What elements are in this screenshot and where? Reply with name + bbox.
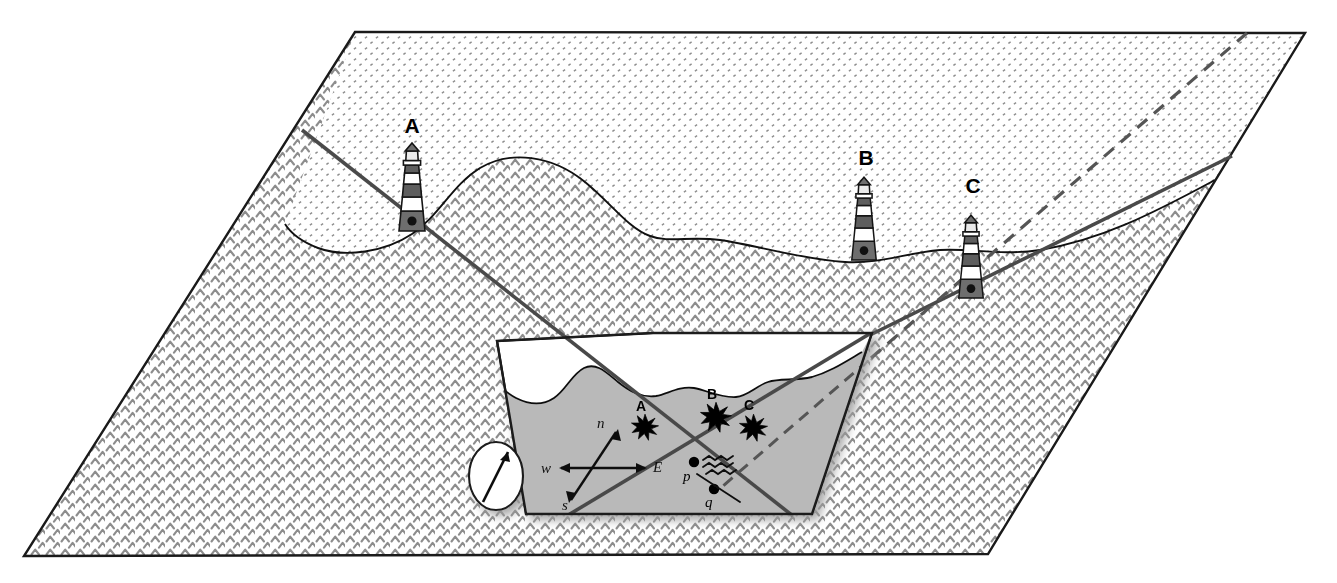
direction-label-n: n xyxy=(597,415,605,431)
direction-label-e: E xyxy=(652,459,662,475)
bearing-label-c: C xyxy=(744,397,754,413)
lighthouse-b-label: B xyxy=(858,146,873,169)
bearing-label-b: B xyxy=(707,386,717,402)
compass-rose xyxy=(469,442,523,510)
point-p-dot xyxy=(689,457,699,467)
coastal-triangulation-diagram: n w E s A B C p q xyxy=(0,0,1337,583)
direction-label-s: s xyxy=(562,497,568,513)
lighthouse-a-label: A xyxy=(404,114,419,137)
point-q-label: q xyxy=(705,494,713,510)
bearing-label-a: A xyxy=(636,398,646,414)
lighthouse-c-label: C xyxy=(965,174,980,197)
direction-label-w: w xyxy=(541,460,551,476)
point-p-label: p xyxy=(682,468,691,484)
figure-canvas: n w E s A B C p q xyxy=(0,0,1337,583)
